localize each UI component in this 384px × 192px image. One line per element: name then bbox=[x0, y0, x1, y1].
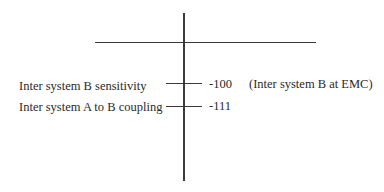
vertical-axis bbox=[183, 13, 185, 181]
label-a-to-b-coupling: Inter system A to B coupling bbox=[19, 100, 162, 114]
value-b-sensitivity: -100 bbox=[209, 77, 232, 91]
top-horizontal-line bbox=[95, 42, 316, 44]
label-b-sensitivity: Inter system B sensitivity bbox=[19, 79, 146, 93]
note-b-emc: (Inter system B at EMC) bbox=[249, 77, 373, 91]
tick-a-to-b-coupling bbox=[166, 106, 202, 107]
value-a-to-b-coupling: -111 bbox=[209, 99, 231, 113]
tick-b-sensitivity bbox=[166, 83, 202, 84]
